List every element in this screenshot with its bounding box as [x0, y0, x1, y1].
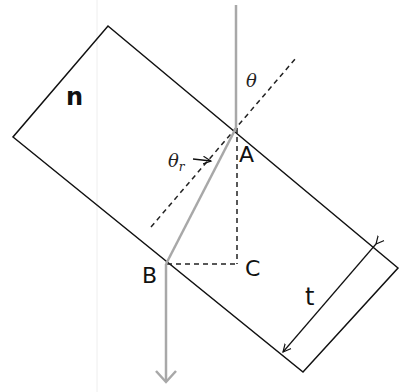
- theta-r-pointer-arrow: [193, 159, 211, 161]
- thickness-dimension-arrow: [283, 244, 376, 352]
- label-c: C: [245, 256, 260, 281]
- label-theta-r: θr: [168, 150, 186, 174]
- glass-slab: [13, 26, 398, 372]
- label-theta: θ: [246, 70, 257, 91]
- label-t: t: [305, 283, 314, 311]
- label-a: A: [239, 142, 254, 167]
- label-b: B: [142, 263, 157, 288]
- label-theta-r-sub: r: [179, 160, 186, 174]
- label-n: n: [66, 83, 83, 111]
- normal-line: [151, 58, 296, 227]
- label-theta-r-main: θ: [168, 150, 179, 171]
- refraction-diagram: n θ θr A B C t: [0, 0, 410, 392]
- refracted-ray: [166, 128, 236, 264]
